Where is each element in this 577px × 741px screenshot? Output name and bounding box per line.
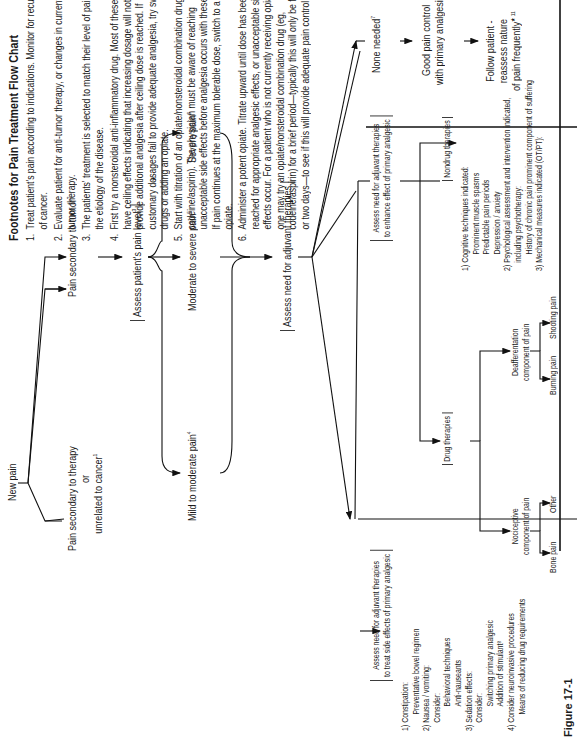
node-burning-pain: Burning pain bbox=[548, 356, 559, 395]
footnote-ref: ★ 11 bbox=[510, 11, 516, 22]
flowchart-page: Footnotes for Pain Treatment Flow Chart … bbox=[0, 0, 577, 741]
footnote-text: Treat patient's pain according to indica… bbox=[24, 0, 49, 230]
drug-therapies-label: Drug therapies bbox=[442, 413, 453, 465]
node-label: Burning bbox=[548, 371, 558, 395]
footnote-ref: 7 bbox=[370, 16, 376, 19]
node-label: to enhance effect of primary analgesic bbox=[382, 119, 393, 237]
node-enhance-adjuvant: Assess need for adjuvant therapies to en… bbox=[370, 115, 393, 241]
list-item: Preventative bowel regimen bbox=[411, 599, 422, 731]
node-label: Deafferentation bbox=[510, 324, 521, 381]
asterisk-marker: * bbox=[150, 177, 163, 181]
node-label: Assess need for adjuvant therapies bbox=[371, 119, 382, 237]
node-nociceptive: Nociceptive component of pain bbox=[510, 498, 531, 555]
node-label: or bbox=[79, 446, 92, 551]
list-item: 1) Constipation: bbox=[400, 599, 411, 731]
footnote-ref: 2 bbox=[66, 196, 72, 199]
list-item: including psychotherapy: bbox=[513, 80, 524, 271]
list-item: 1) Cognitive techniques indicated: bbox=[460, 80, 471, 271]
node-new-pain: New pain bbox=[6, 463, 19, 501]
list-item: 2) Nausea / vomiting: bbox=[421, 599, 432, 731]
footnote-6: 6. Administer a potent opiate. Titrate u… bbox=[236, 0, 311, 241]
footnote-number: 2. bbox=[52, 234, 65, 241]
footnote-text: Evaluate patient for anti-tumor therapy,… bbox=[52, 0, 77, 230]
node-label: unrelated to cancer bbox=[92, 456, 104, 533]
footnote-text: Start with titration of an opiate/nonste… bbox=[172, 0, 235, 230]
list-item: Addition of stimulant⁸ bbox=[495, 599, 506, 731]
node-label: component of pain bbox=[521, 324, 532, 381]
footnote-ref: 1 bbox=[92, 454, 98, 457]
node-label: Moderate to severe pain bbox=[186, 214, 198, 311]
list-item: Anti-nauseants bbox=[453, 599, 464, 731]
footnote-text: The patients' treatment is selected to m… bbox=[80, 0, 105, 230]
list-item: Depression / anxiety bbox=[492, 80, 503, 271]
node-none-needed: None needed7 bbox=[370, 16, 383, 73]
footnote-ref: 3 bbox=[131, 209, 137, 212]
footnote-ref: 4 bbox=[186, 432, 192, 435]
node-assess-adjuvant: Assess need for adjuvant therapies bbox=[280, 182, 295, 331]
list-item: Prominent muscle spasms bbox=[471, 80, 482, 271]
list-item: Switching primary analgesic bbox=[485, 599, 496, 731]
footnote-3: 3. The patients' treatment is selected t… bbox=[80, 0, 105, 241]
node-other: Other bbox=[548, 496, 559, 513]
node-label: component of pain bbox=[521, 498, 532, 555]
footnote-ref: 6 bbox=[186, 112, 192, 115]
node-label: New pain bbox=[6, 463, 18, 501]
list-item: 4) Consider neuroinvasive procedures bbox=[506, 599, 517, 731]
node-assess-pain-level: Assess patient's pain level3 bbox=[130, 205, 145, 321]
list-item: Consider: bbox=[432, 599, 443, 731]
node-pain-secondary-therapy: Pain secondary to therapy or unrelated t… bbox=[66, 446, 105, 551]
node-side-effects-adjuvant: Assess need for adjuvant therapies to tr… bbox=[370, 550, 393, 681]
nondrug-therapies-label: Nondrug therapies bbox=[442, 117, 453, 181]
side-effects-list: 1) Constipation: Preventative bowel regi… bbox=[400, 599, 527, 731]
node-label: to treat side effects of primary analges… bbox=[382, 554, 393, 677]
list-item: Consider: bbox=[474, 599, 485, 731]
footnote-5: 5. Start with titration of an opiate/non… bbox=[172, 0, 235, 241]
node-label: Mild to moderate pain bbox=[186, 434, 198, 521]
node-label: Assess patient's pain level bbox=[131, 211, 143, 317]
figure-label: Figure 17-1 bbox=[562, 678, 574, 737]
node-severe-pain: Severe pain6 bbox=[186, 112, 199, 163]
footnote-number: 1. bbox=[24, 234, 37, 241]
list-item: Means of reducing drug requirements bbox=[517, 599, 528, 731]
node-label: Good pain control bbox=[420, 0, 433, 85]
nondrug-therapies-list: 1) Cognitive techniques indicated: Promi… bbox=[460, 80, 545, 271]
node-label: pain bbox=[548, 356, 558, 369]
node-shooting-pain: Shooting pain bbox=[548, 296, 559, 339]
footnote-number: 4. bbox=[108, 234, 121, 241]
list-item: History of chronic pain prominent compon… bbox=[524, 80, 535, 271]
node-moderate-severe-pain: Moderate to severe pain5 bbox=[186, 211, 199, 311]
footnote-ref: 5 bbox=[186, 211, 192, 214]
node-label: with primary analgesic bbox=[433, 0, 446, 85]
list-item: Behavioral techniques bbox=[442, 599, 453, 731]
footnote-text: Administer a potent opiate. Titrate upwa… bbox=[236, 0, 311, 230]
footnotes-title: Footnotes for Pain Treatment Flow Chart bbox=[6, 35, 21, 241]
footnote-number: 5. bbox=[172, 234, 185, 241]
footnote-1: 1. Treat patient's pain according to ind… bbox=[24, 0, 49, 241]
node-label: Shooting bbox=[548, 311, 558, 339]
node-good-pain-control: Good pain control with primary analgesic bbox=[420, 0, 446, 85]
node-label: Assess need for adjuvant therapies bbox=[371, 554, 382, 677]
page-viewport: Footnotes for Pain Treatment Flow Chart … bbox=[0, 0, 577, 741]
node-deafferentation: Deafferentation component of pain bbox=[510, 324, 531, 381]
node-bone-pain: Bone pain bbox=[548, 542, 559, 573]
node-label: Pain secondary to tumor bbox=[66, 199, 78, 297]
node-label: Severe pain bbox=[186, 115, 198, 163]
footnote-number: 6. bbox=[236, 234, 249, 241]
list-item: Predictable pain periods bbox=[481, 80, 492, 271]
list-item: 3) Mechanical measures indicated (OT/PT)… bbox=[534, 80, 545, 271]
node-label: Nociceptive bbox=[510, 498, 521, 555]
node-pain-secondary-tumor: Pain secondary to tumor2 bbox=[66, 196, 79, 297]
footnote-number: 3. bbox=[80, 234, 93, 241]
node-mild-moderate-pain: Mild to moderate pain4 bbox=[186, 432, 199, 521]
node-label: Assess need for adjuvant therapies bbox=[281, 186, 293, 327]
list-item: 3) Sedation effects: bbox=[464, 599, 475, 731]
node-label: None needed bbox=[370, 19, 382, 73]
footnote-text: First try a nonsteroidal anti-inflammato… bbox=[108, 0, 171, 230]
list-item: 2) Psychological assessment and interven… bbox=[502, 80, 513, 271]
node-label: Pain secondary to therapy bbox=[66, 446, 79, 551]
node-label: pain bbox=[548, 296, 558, 309]
